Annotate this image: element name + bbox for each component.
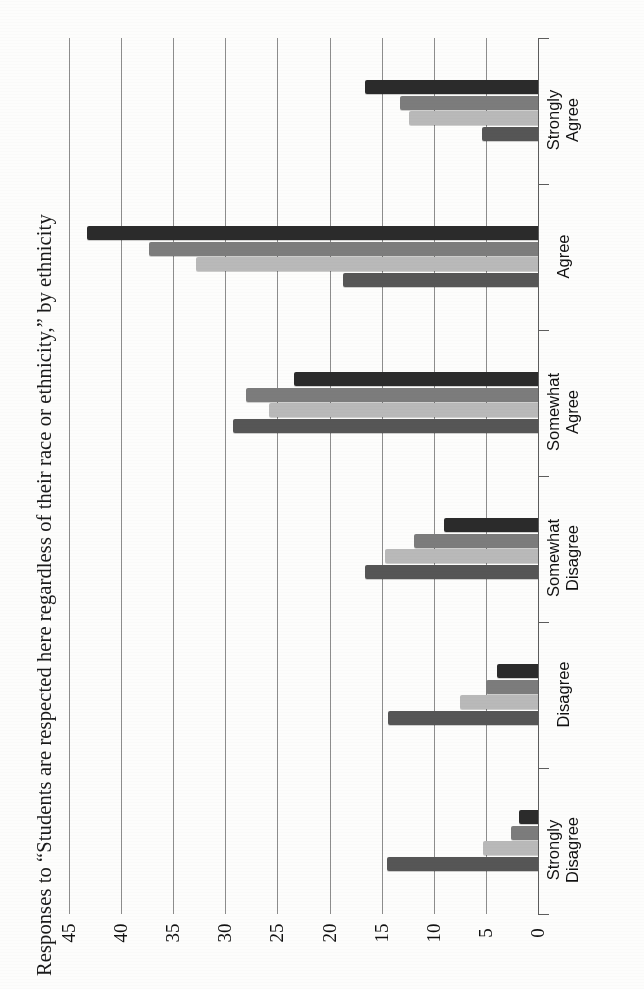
category-axis-start bbox=[538, 38, 549, 39]
category-label: Strongly Disagree bbox=[544, 775, 582, 925]
value-tick-label: 20 bbox=[319, 913, 341, 953]
bar bbox=[483, 841, 538, 855]
bar bbox=[482, 127, 538, 141]
bar bbox=[365, 80, 538, 94]
bar-group bbox=[69, 38, 538, 184]
category-label: Agree bbox=[554, 182, 573, 332]
value-tick-label: 45 bbox=[58, 913, 80, 953]
bar bbox=[387, 857, 538, 871]
category-tick bbox=[538, 768, 549, 769]
bar bbox=[196, 257, 538, 271]
bar bbox=[87, 226, 538, 240]
category-label: Somewhat Agree bbox=[544, 337, 582, 487]
bar bbox=[269, 403, 538, 417]
bar-group bbox=[69, 330, 538, 476]
bar bbox=[409, 111, 538, 125]
category-label: Strongly Agree bbox=[544, 45, 582, 195]
plot-area bbox=[69, 38, 538, 914]
bar bbox=[511, 826, 538, 840]
bar bbox=[460, 695, 538, 709]
bar bbox=[414, 534, 538, 548]
bar bbox=[233, 419, 538, 433]
value-tick-label: 10 bbox=[423, 913, 445, 953]
value-tick-label: 30 bbox=[214, 913, 236, 953]
bar bbox=[149, 242, 538, 256]
bar bbox=[497, 664, 538, 678]
bar bbox=[294, 372, 538, 386]
bar bbox=[486, 680, 538, 694]
value-tick-label: 25 bbox=[266, 913, 288, 953]
bar-chart: 454035302520151050Strongly AgreeAgreeSom… bbox=[0, 0, 644, 989]
bar bbox=[400, 96, 538, 110]
bar bbox=[343, 273, 538, 287]
bar-group bbox=[69, 476, 538, 622]
value-tick-label: 15 bbox=[371, 913, 393, 953]
category-label: Disagree bbox=[554, 620, 573, 770]
bar-group bbox=[69, 622, 538, 768]
bar-group bbox=[69, 768, 538, 914]
category-tick bbox=[538, 330, 549, 331]
bar bbox=[519, 810, 538, 824]
category-label: Somewhat Disagree bbox=[544, 483, 582, 633]
value-tick-label: 5 bbox=[475, 913, 497, 953]
value-tick-label: 40 bbox=[110, 913, 132, 953]
bar bbox=[444, 518, 538, 532]
bar-group bbox=[69, 184, 538, 330]
bar bbox=[365, 565, 538, 579]
bar bbox=[385, 549, 538, 563]
bar bbox=[246, 388, 538, 402]
bar bbox=[388, 711, 538, 725]
value-tick-label: 35 bbox=[162, 913, 184, 953]
